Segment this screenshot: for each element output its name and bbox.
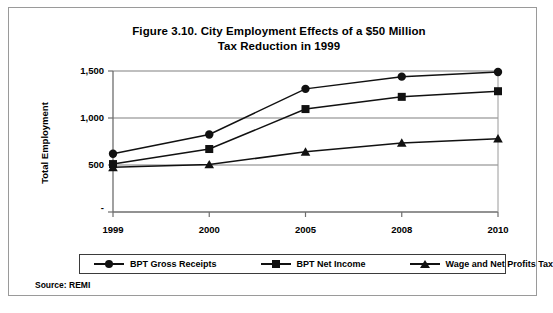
legend-entry-3[interactable]: Wage and Net Profits Tax	[410, 255, 553, 273]
svg-text:2008: 2008	[391, 224, 412, 235]
svg-text:1999: 1999	[102, 224, 123, 235]
chart-legend: BPT Gross ReceiptsBPT Net IncomeWage and…	[79, 254, 506, 274]
legend-entry-2[interactable]: BPT Net Income	[261, 255, 366, 273]
svg-text:2005: 2005	[295, 224, 317, 235]
svg-text:2010: 2010	[487, 224, 508, 235]
series-3	[108, 134, 503, 171]
svg-text:1,000: 1,000	[80, 112, 104, 123]
figure-frame: Figure 3.10. City Employment Effects of …	[8, 7, 537, 296]
legend-marker-triangle-icon	[410, 258, 440, 270]
svg-text:-: -	[101, 202, 104, 213]
data-series-layer	[108, 68, 503, 171]
svg-text:2000: 2000	[199, 224, 220, 235]
y-axis-ticks: -5001,0001,500	[80, 65, 113, 213]
source-note: Source: REMI	[35, 280, 90, 290]
svg-text:500: 500	[88, 159, 104, 170]
legend-entry-1[interactable]: BPT Gross Receipts	[94, 255, 217, 273]
series-2	[109, 87, 502, 168]
legend-label: BPT Net Income	[297, 259, 366, 269]
svg-text:1,500: 1,500	[80, 65, 104, 76]
legend-label: Wage and Net Profits Tax	[446, 259, 553, 269]
legend-marker-circle-icon	[94, 258, 124, 270]
x-axis-ticks: 19992000200520082010	[102, 212, 508, 235]
legend-marker-square-icon	[261, 258, 291, 270]
legend-label: BPT Gross Receipts	[130, 259, 217, 269]
